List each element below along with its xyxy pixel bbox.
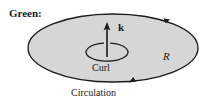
green-theorem-figure: Green: k Curl R Circulation	[0, 0, 215, 105]
normal-vector-label: k	[118, 22, 124, 33]
green-theorem-label: Green:	[9, 8, 42, 19]
curl-label: Curl	[92, 63, 110, 73]
region-label: R	[163, 51, 170, 62]
region-ellipse	[28, 14, 198, 82]
circulation-label: Circulation	[71, 88, 116, 98]
